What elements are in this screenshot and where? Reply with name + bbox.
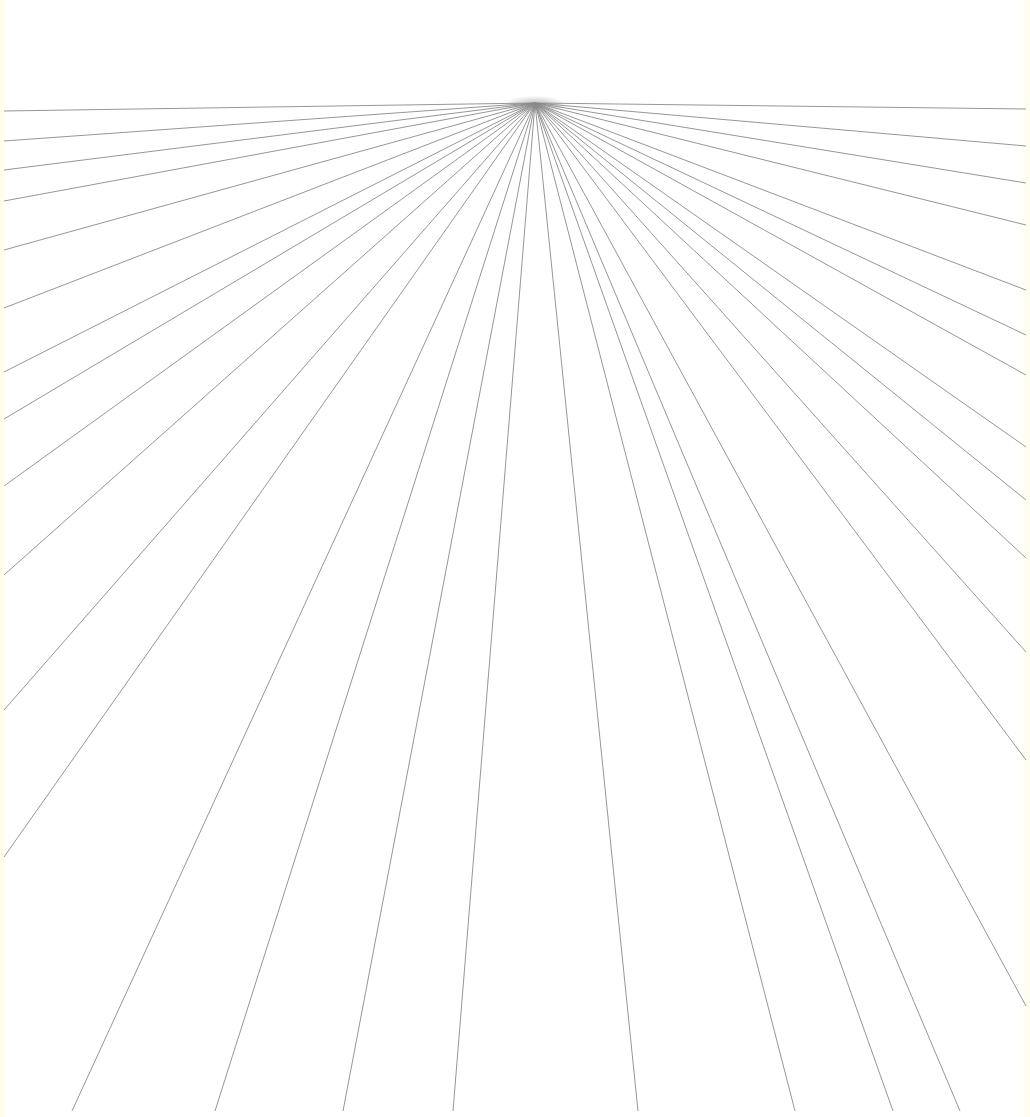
ray-group bbox=[4, 103, 1026, 1111]
radiating-lines bbox=[0, 0, 1030, 1117]
ray-line-right bbox=[535, 103, 1026, 652]
ray-line-right bbox=[535, 103, 1026, 1006]
ray-line-left bbox=[4, 103, 535, 710]
ray-line-left bbox=[4, 103, 535, 372]
ray-line-right bbox=[535, 103, 1026, 146]
ray-line-right bbox=[535, 103, 1026, 500]
ray-line-right bbox=[535, 103, 1026, 447]
ray-line-right bbox=[535, 103, 1026, 290]
ray-line-left bbox=[4, 103, 535, 419]
ray-line-bottom bbox=[535, 103, 638, 1111]
ray-line-bottom bbox=[535, 103, 960, 1111]
ray-line-left bbox=[4, 103, 535, 141]
ray-line-left bbox=[4, 103, 535, 486]
ray-line-left bbox=[4, 103, 535, 250]
ray-line-left bbox=[4, 103, 535, 575]
ray-line-left bbox=[4, 103, 535, 857]
ray-line-right bbox=[535, 103, 1026, 335]
ray-line-left bbox=[4, 103, 535, 201]
perspective-diagram-canvas bbox=[0, 0, 1030, 1117]
ray-line-right bbox=[535, 103, 1026, 760]
ray-line-bottom bbox=[535, 103, 795, 1111]
ray-line-bottom bbox=[215, 103, 535, 1111]
ray-line-bottom bbox=[343, 103, 535, 1111]
ray-line-left bbox=[4, 103, 535, 111]
ray-line-bottom bbox=[535, 103, 893, 1111]
ray-line-right bbox=[535, 103, 1026, 225]
ray-line-right bbox=[535, 103, 1026, 109]
